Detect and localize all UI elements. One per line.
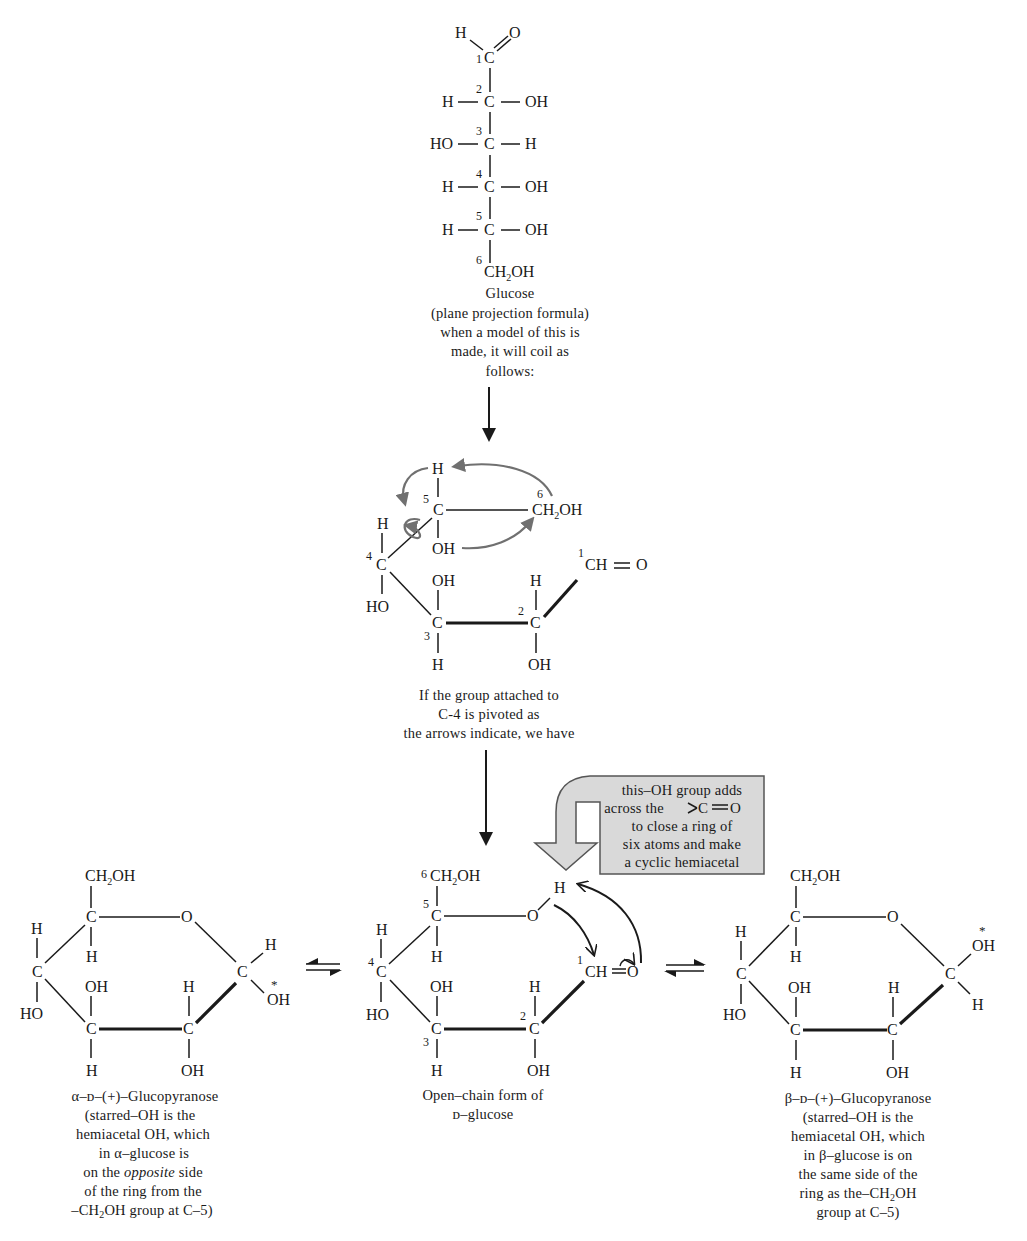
beta-glucopyranose: CH2OH C O H H C HO OH C H H C OH C * OH … — [723, 867, 996, 1221]
substituent: OH — [525, 93, 549, 110]
bond — [470, 40, 483, 50]
atom-oh: OH — [432, 540, 456, 557]
bond — [45, 979, 85, 1022]
svg-text:3: 3 — [424, 629, 430, 643]
carbon-5: C — [484, 221, 495, 238]
bond — [390, 572, 431, 615]
carbon-2: C — [484, 93, 495, 110]
atom-h: H — [554, 879, 566, 896]
substituent: OH — [525, 178, 549, 195]
left-equilibrium-arrow — [306, 958, 342, 976]
carbon-3: C — [432, 614, 443, 631]
carbon-2: C — [529, 1020, 540, 1037]
svg-text:group at C–5): group at C–5) — [816, 1204, 899, 1221]
substituent: H — [525, 135, 537, 152]
atom-oh: OH — [527, 1062, 551, 1079]
svg-text:O: O — [730, 800, 741, 816]
bond — [251, 953, 263, 963]
svg-text:α–ᴅ–(+)–Glucopyranose: α–ᴅ–(+)–Glucopyranose — [72, 1088, 219, 1105]
svg-text:hemiacetal OH, which: hemiacetal OH, which — [76, 1126, 211, 1142]
ch2oh-group: CH2OH — [85, 867, 136, 887]
bond — [195, 922, 236, 962]
svg-text:(starred–OH is the: (starred–OH is the — [85, 1107, 196, 1124]
opposite-side-line: on the opposite side — [83, 1164, 203, 1180]
bond — [45, 925, 85, 963]
bond — [497, 39, 511, 51]
atom-h: H — [972, 996, 984, 1013]
svg-text:of the ring from the: of the ring from the — [84, 1183, 202, 1199]
ring-oxygen: O — [887, 908, 899, 925]
ch2oh-group: CH2OH — [790, 867, 841, 887]
bond-bold — [544, 580, 577, 617]
carbon-1: C — [484, 49, 495, 66]
pivot-arrow-icon — [462, 522, 530, 548]
svg-text:C: C — [698, 800, 708, 816]
svg-text:(plane projection formula): (plane projection formula) — [431, 305, 589, 322]
star-marker: * — [979, 923, 986, 938]
ch2oh-group: CH2OH — [430, 867, 481, 887]
svg-text:4: 4 — [368, 955, 374, 969]
bond — [958, 954, 971, 966]
atom-h: H — [530, 572, 542, 589]
substituent: OH — [525, 221, 549, 238]
atom-ho: HO — [366, 1006, 389, 1023]
bond — [389, 926, 430, 964]
callout-box: this–OH group adds across the C O to clo… — [535, 776, 764, 874]
atom-o: O — [636, 556, 648, 573]
bond — [749, 981, 789, 1024]
atom-h: H — [377, 515, 389, 532]
coiled-glucose: H 5 C 6 CH2OH OH H 4 C HO OH C 3 H H 2 C… — [366, 460, 648, 741]
svg-text:to close a ring of: to close a ring of — [631, 818, 732, 834]
svg-text:4: 4 — [366, 549, 372, 563]
svg-text:2: 2 — [518, 604, 524, 618]
ch2oh-line: –CH2OH group at C–5) — [70, 1202, 213, 1220]
svg-text:hemiacetal OH, which: hemiacetal OH, which — [791, 1128, 926, 1144]
substituent: H — [442, 221, 454, 238]
carbon-number: 3 — [476, 124, 482, 138]
atom-h: H — [86, 1062, 98, 1079]
star-marker: * — [271, 977, 278, 992]
fischer-projection: H O 1 C 2 H C OH 3 HO C H 4 H C OH 5 H — [430, 24, 589, 379]
carbon-4: C — [376, 963, 387, 980]
svg-text:six atoms and make: six atoms and make — [623, 836, 741, 852]
atom-ho: HO — [20, 1005, 43, 1022]
substituent: H — [442, 178, 454, 195]
carbon-3: C — [484, 135, 495, 152]
right-equilibrium-arrow — [664, 959, 706, 977]
fischer-o-top: O — [509, 24, 521, 41]
ch2oh-line: ring as the–CH2OH — [799, 1185, 916, 1203]
alpha-glucopyranose: CH2OH C O H H C HO OH C H H C OH C H * O… — [20, 867, 291, 1220]
fischer-caption: Glucose (plane projection formula) when … — [431, 285, 589, 379]
carbon-5: C — [790, 908, 801, 925]
open-chain-caption: Open–chain form of ᴅ–glucose — [422, 1087, 543, 1122]
bond — [388, 518, 432, 558]
atom-h: H — [86, 948, 98, 965]
alpha-caption: α–ᴅ–(+)–Glucopyranose (starred–OH is the… — [70, 1088, 218, 1220]
svg-text:C-4 is pivoted as: C-4 is pivoted as — [438, 706, 539, 722]
bond — [390, 980, 430, 1022]
atom-h: H — [735, 923, 747, 940]
bond — [494, 36, 508, 48]
atom-h: H — [376, 921, 388, 938]
carbon-number: 5 — [476, 209, 482, 223]
atom-oh: OH — [85, 978, 109, 995]
atom-oh: OH — [886, 1064, 910, 1081]
carbon-6-ch2oh: CH2OH — [484, 263, 535, 283]
carbon-number: 2 — [476, 82, 482, 96]
carbon-4: C — [376, 556, 387, 573]
svg-text:β–ᴅ–(+)–Glucopyranose: β–ᴅ–(+)–Glucopyranose — [785, 1090, 932, 1107]
substituent: H — [442, 93, 454, 110]
svg-text:Glucose: Glucose — [486, 285, 535, 301]
atom-ho: HO — [723, 1006, 746, 1023]
svg-text:made, it will coil as: made, it will coil as — [451, 343, 569, 359]
ch2oh-group: CH2OH — [532, 501, 583, 521]
atom-h: H — [888, 979, 900, 996]
atom-h: H — [529, 978, 541, 995]
carbon-5: C — [431, 907, 442, 924]
carbon-5: C — [86, 908, 97, 925]
aldehyde-group: CH — [585, 556, 608, 573]
carbon-number: 6 — [476, 253, 482, 267]
bond — [251, 980, 264, 993]
bond — [749, 925, 789, 966]
bond-bold — [900, 985, 943, 1024]
